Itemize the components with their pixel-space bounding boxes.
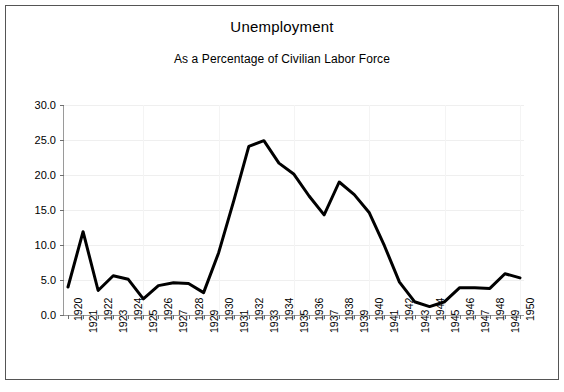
x-axis-tick-label: 1931 — [238, 310, 250, 333]
gridline-vertical — [143, 105, 144, 315]
y-axis-tick-mark — [60, 105, 64, 106]
x-axis-tick-mark — [384, 315, 385, 319]
y-axis-tick-label: 20.0 — [10, 169, 56, 181]
chart-figure: Unemployment As a Percentage of Civilian… — [0, 0, 564, 392]
y-axis-tick-mark — [60, 280, 64, 281]
x-axis-tick-mark — [339, 315, 340, 319]
x-axis-tick-mark — [204, 315, 205, 319]
x-axis-tick-mark — [354, 315, 355, 319]
x-axis-tick-mark — [264, 315, 265, 319]
x-axis-tick-mark — [158, 315, 159, 319]
x-axis-tick-mark — [490, 315, 491, 319]
plot-area: 0.05.010.015.020.025.030.019201921192219… — [63, 105, 524, 316]
gridline-vertical — [369, 105, 370, 315]
x-axis-tick-mark — [460, 315, 461, 319]
x-axis-tick-mark — [399, 315, 400, 319]
x-axis-tick-mark — [324, 315, 325, 319]
y-axis-tick-mark — [60, 315, 64, 316]
x-axis-tick-mark — [475, 315, 476, 319]
x-axis-tick-mark — [173, 315, 174, 319]
x-axis-tick-mark — [143, 315, 144, 319]
x-axis-tick-label: 1921 — [87, 310, 99, 333]
x-axis-tick-label: 1933 — [268, 310, 280, 333]
x-axis-tick-mark — [430, 315, 431, 319]
gridline-vertical — [294, 105, 295, 315]
x-axis-tick-label: 1927 — [177, 310, 189, 333]
y-axis-tick-mark — [60, 175, 64, 176]
gridline-vertical — [520, 105, 521, 315]
x-axis-tick-mark — [98, 315, 99, 319]
x-axis-tick-label: 1925 — [147, 310, 159, 333]
y-axis-tick-label: 0.0 — [10, 309, 56, 321]
x-axis-tick-mark — [68, 315, 69, 319]
y-axis-tick-label: 25.0 — [10, 134, 56, 146]
x-axis-tick-mark — [294, 315, 295, 319]
x-axis-tick-mark — [128, 315, 129, 319]
y-axis-tick-mark — [60, 245, 64, 246]
y-axis-tick-label: 15.0 — [10, 204, 56, 216]
x-axis-tick-mark — [249, 315, 250, 319]
x-axis-tick-mark — [505, 315, 506, 319]
y-axis-tick-mark — [60, 210, 64, 211]
x-axis-tick-mark — [113, 315, 114, 319]
x-axis-tick-label: 1937 — [328, 310, 340, 333]
x-axis-tick-mark — [279, 315, 280, 319]
gridline-vertical — [219, 105, 220, 315]
y-axis-tick-label: 10.0 — [10, 239, 56, 251]
x-axis-tick-label: 1935 — [298, 310, 310, 333]
x-axis-tick-label: 1947 — [479, 310, 491, 333]
y-axis-tick-label: 30.0 — [10, 99, 56, 111]
x-axis-tick-mark — [309, 315, 310, 319]
x-axis-tick-mark — [189, 315, 190, 319]
x-axis-tick-label: 1943 — [419, 310, 431, 333]
x-axis-tick-label: 1941 — [388, 310, 400, 333]
x-axis-tick-mark — [219, 315, 220, 319]
x-axis-tick-label: 1923 — [117, 310, 129, 333]
chart-title: Unemployment — [0, 18, 564, 35]
x-axis-tick-mark — [369, 315, 370, 319]
y-axis-tick-mark — [60, 140, 64, 141]
x-axis-tick-mark — [415, 315, 416, 319]
x-axis-tick-mark — [83, 315, 84, 319]
chart-subtitle: As a Percentage of Civilian Labor Force — [0, 52, 564, 66]
x-axis-tick-label: 1945 — [449, 310, 461, 333]
x-axis-tick-mark — [520, 315, 521, 319]
x-axis-tick-label: 1950 — [524, 298, 536, 321]
gridline-vertical — [445, 105, 446, 315]
x-axis-tick-mark — [234, 315, 235, 319]
bottom-edge-artifact — [6, 382, 558, 390]
y-axis-tick-label: 5.0 — [10, 274, 56, 286]
x-axis-tick-mark — [445, 315, 446, 319]
